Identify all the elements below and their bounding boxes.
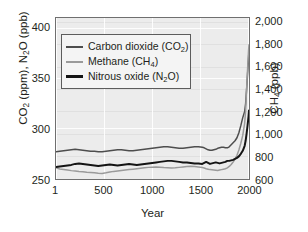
y-left-tick-label: 250 (14, 175, 50, 186)
legend: Carbon dioxide (CO2) Methane (CH4) Nitro… (61, 34, 191, 89)
x-tick-label: 1 (35, 185, 75, 196)
x-tick-label: 500 (84, 185, 124, 196)
legend-swatch-ch4-icon (66, 61, 83, 63)
y-axis-right-title: CH4 (ppb) (268, 43, 280, 133)
legend-swatch-n2o-icon (66, 75, 83, 78)
y-right-tick-label: 800 (255, 152, 273, 163)
x-tick-label: 1000 (132, 185, 172, 196)
greenhouse-gas-concentration-chart: 250300350400 6008001,0001,2001,4001,6001… (0, 0, 308, 232)
y-right-tick-label: 2,000 (255, 16, 283, 27)
legend-item-co2: Carbon dioxide (CO2) (66, 39, 185, 54)
x-tick-label: 1500 (181, 185, 221, 196)
legend-item-n2o: Nitrous oxide (N2O) (66, 69, 185, 84)
legend-label-ch4: Methane (CH4) (88, 56, 158, 68)
legend-item-ch4: Methane (CH4) (66, 54, 185, 69)
x-axis-title: Year (55, 207, 250, 219)
legend-swatch-co2-icon (66, 46, 83, 48)
y-axis-left-title: CO2 (ppm), N2O (ppb) (17, 0, 29, 138)
x-tick-label: 2000 (230, 185, 270, 196)
legend-label-n2o: Nitrous oxide (N2O) (88, 71, 179, 83)
legend-label-co2: Carbon dioxide (CO2) (88, 41, 189, 53)
